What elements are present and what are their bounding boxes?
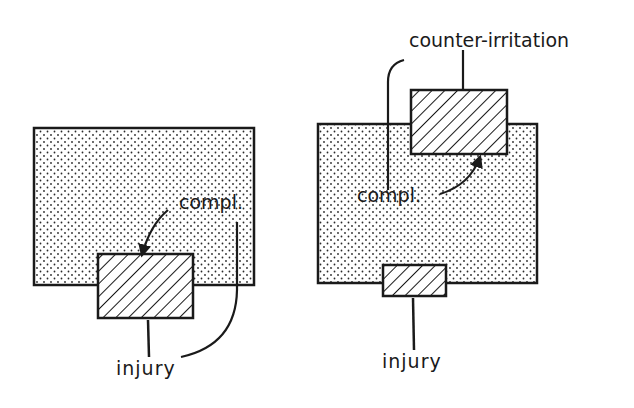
right-injury-box [383,265,446,296]
left-injury-label: injury [116,357,176,379]
left-compl-label: compl. [179,191,243,213]
right-injury-leader-line [413,298,414,350]
diagram-canvas: compl. injury counter-irritation compl. … [0,0,634,408]
right-injury-label: injury [382,350,442,372]
left-injury-box [98,254,193,318]
right-compl-label: compl. [357,184,421,206]
counter-irritation-label: counter-irritation [409,29,569,51]
left-injury-leader-line [148,320,149,357]
right-counter-irritation-box [411,90,507,154]
left-panel: compl. injury [34,128,254,379]
right-panel: counter-irritation compl. injury [318,29,569,372]
